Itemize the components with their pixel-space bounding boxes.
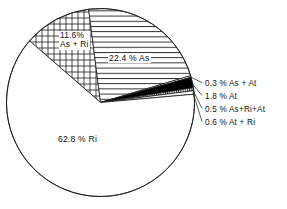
slice-label-as: 22.4 % As bbox=[108, 54, 151, 64]
slice-label-at-text: 1.8 % At bbox=[205, 92, 237, 101]
slice-label-ri: 62.8 % Ri bbox=[57, 135, 98, 145]
slice-label-as-at-text: 0.3 % As + At bbox=[205, 79, 257, 88]
slice-label-as-ri-name: As + Ri bbox=[59, 40, 90, 49]
pie-slices-group bbox=[6, 8, 194, 196]
slice-label-as-at: 0.3 % As + At bbox=[205, 79, 257, 88]
slice-label-at-ri: 0.6 % At + Ri bbox=[205, 118, 255, 127]
slice-label-as-ri-at-text: 0.5 % As+Ri+At bbox=[205, 105, 265, 114]
pie-chart: 11.6% As + Ri 22.4 % As 62.8 % Ri 0.3 % … bbox=[0, 0, 287, 209]
slice-label-as-ri-at: 0.5 % As+Ri+At bbox=[205, 105, 265, 114]
slice-label-ri-text: 62.8 % Ri bbox=[57, 134, 98, 144]
slice-label-as-text: 22.4 % As bbox=[108, 53, 151, 63]
slice-label-at-ri-text: 0.6 % At + Ri bbox=[205, 118, 255, 127]
slice-label-as-ri: 11.6% As + Ri bbox=[59, 31, 90, 50]
slice-label-at: 1.8 % At bbox=[205, 92, 237, 101]
